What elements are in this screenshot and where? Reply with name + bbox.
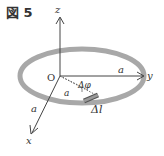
radius-label-x: a xyxy=(31,103,37,114)
y-axis-label: y xyxy=(146,70,153,81)
origin-label: O xyxy=(47,72,55,83)
arc-element-label: Δl xyxy=(90,103,103,116)
radius-label-y: a xyxy=(118,64,124,75)
ring-diagram: z y x O a a a Δφ Δl xyxy=(0,0,164,156)
z-axis-label: z xyxy=(54,4,61,15)
x-axis-label: x xyxy=(26,135,32,146)
angle-label: Δφ xyxy=(77,80,91,90)
radius-label-diag: a xyxy=(64,88,69,98)
